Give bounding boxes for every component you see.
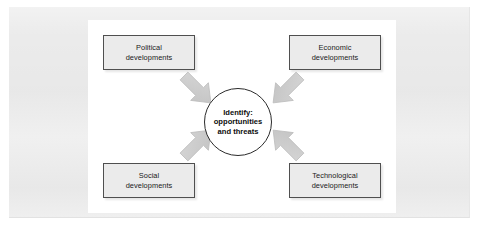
screenshot-canvas: Political developments Economic developm… <box>0 0 480 235</box>
center-label-line2: opportunities <box>214 117 263 127</box>
center-node-circle[interactable]: Identify: opportunities and threats <box>204 88 272 156</box>
center-label-line3: and threats <box>218 127 259 137</box>
center-label-line1: Identify: <box>223 108 253 118</box>
arrow-economic-to-center <box>264 67 309 112</box>
